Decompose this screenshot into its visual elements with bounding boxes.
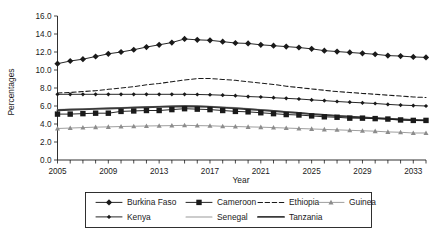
data-point-marker [423, 118, 428, 123]
data-point-marker [106, 111, 111, 116]
data-point-marker [411, 118, 416, 123]
y-tick-label: 12.0 [36, 48, 52, 57]
legend-label: Kenya [127, 212, 151, 222]
data-point-marker [195, 106, 200, 111]
data-point-marker [322, 114, 327, 119]
legend-label: Tanzania [289, 212, 323, 222]
data-point-marker [207, 107, 212, 112]
x-tick-label: 2033 [404, 167, 423, 176]
data-point-marker [334, 115, 339, 120]
y-tick-label: 14.0 [36, 30, 52, 39]
data-point-marker [80, 111, 85, 116]
data-point-marker [398, 117, 403, 122]
percentages-by-country-line-chart: Percentages 0.02.04.06.08.010.012.014.01… [0, 0, 442, 242]
legend-label: Cameroon [217, 197, 256, 207]
data-point-marker [385, 116, 390, 121]
data-point-marker [118, 109, 123, 114]
y-axis-title: Percentages [6, 68, 16, 115]
x-tick-label: 2009 [99, 167, 118, 176]
data-point-marker [360, 115, 365, 120]
y-tick-label: 4.0 [40, 120, 52, 129]
y-tick-label: 6.0 [40, 102, 52, 111]
data-point-marker [55, 111, 60, 116]
x-tick-label: 2025 [303, 167, 322, 176]
legend-label: Ethiopia [289, 197, 320, 207]
y-tick-label: 2.0 [40, 138, 52, 147]
x-tick-label: 2005 [48, 167, 67, 176]
x-tick-label: 2017 [201, 167, 220, 176]
data-point-marker [196, 200, 201, 205]
data-point-marker [271, 111, 276, 116]
data-point-marker [93, 111, 98, 116]
data-point-marker [245, 109, 250, 114]
data-point-marker [347, 115, 352, 120]
legend-label: Senegal [217, 212, 248, 222]
data-point-marker [296, 112, 301, 117]
data-point-marker [284, 112, 289, 117]
data-point-marker [131, 108, 136, 113]
data-point-marker [169, 107, 174, 112]
legend-label: Guinea [349, 197, 376, 207]
y-tick-label: 0.0 [40, 156, 52, 165]
x-axis-title: Year [233, 175, 250, 185]
data-point-marker [309, 113, 314, 118]
y-tick-label: 8.0 [40, 84, 52, 93]
data-point-marker [372, 116, 377, 121]
y-tick-label: 10.0 [36, 66, 52, 75]
y-tick-label: 16.0 [36, 12, 52, 21]
x-tick-label: 2021 [252, 167, 271, 176]
data-point-marker [68, 111, 73, 116]
data-point-marker [144, 108, 149, 113]
data-point-marker [156, 108, 161, 113]
data-point-marker [220, 108, 225, 113]
x-tick-label: 2029 [353, 167, 372, 176]
chart-figure: Percentages 0.02.04.06.08.010.012.014.01… [0, 0, 442, 242]
data-point-marker [182, 106, 187, 111]
data-point-marker [233, 109, 238, 114]
legend-label: Burkina Faso [127, 197, 177, 207]
x-tick-label: 2013 [150, 167, 169, 176]
data-point-marker [258, 110, 263, 115]
